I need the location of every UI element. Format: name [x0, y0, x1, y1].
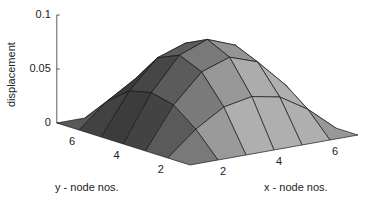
- y-tick-label: 6: [69, 136, 75, 147]
- surface-plot: [0, 0, 370, 204]
- z-tick-label: 0: [45, 117, 51, 128]
- x-tick-label: 6: [332, 146, 338, 157]
- y-axis-title: y - node nos.: [55, 182, 119, 193]
- x-tick-label: 2: [220, 166, 226, 177]
- z-tick-label: 0.1: [36, 9, 51, 20]
- z-tick-label: 0.05: [29, 63, 50, 74]
- z-axis: [57, 15, 60, 123]
- x-tick-label: 4: [276, 156, 282, 167]
- z-axis-title: displacement: [6, 42, 17, 107]
- y-tick-label: 2: [158, 164, 164, 175]
- y-tick-label: 4: [113, 150, 119, 161]
- x-axis-title: x - node nos.: [264, 182, 328, 193]
- displacement-surface: [57, 39, 358, 165]
